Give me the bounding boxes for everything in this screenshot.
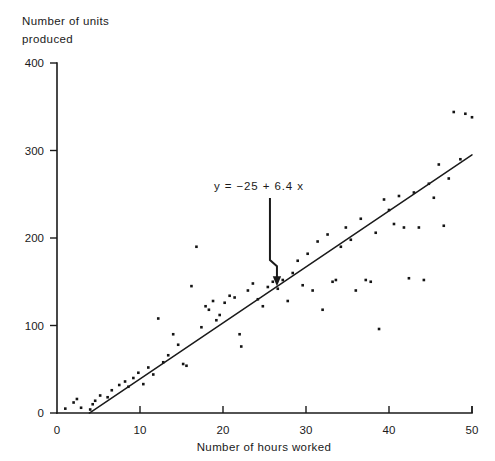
data-point — [311, 289, 314, 292]
data-point — [157, 317, 160, 320]
data-point — [89, 408, 92, 411]
data-point — [464, 112, 467, 115]
x-tick-label: 0 — [54, 424, 60, 436]
data-point — [252, 282, 255, 285]
data-point — [321, 308, 324, 311]
data-point — [393, 223, 396, 226]
data-point — [301, 284, 304, 287]
x-tick-label: 20 — [217, 424, 230, 436]
data-point — [364, 279, 367, 282]
x-tick-label: 40 — [383, 424, 396, 436]
y-axis-ticks: 0100200300400 — [25, 57, 57, 419]
data-point — [423, 279, 426, 282]
data-point — [215, 319, 218, 322]
x-tick-label: 30 — [300, 424, 313, 436]
data-point — [142, 383, 145, 386]
data-point — [340, 245, 343, 248]
data-point — [94, 399, 97, 402]
data-point — [137, 371, 140, 374]
data-point — [185, 364, 188, 367]
data-point — [345, 226, 348, 229]
data-point — [64, 407, 67, 410]
y-axis-title-line2: produced — [22, 33, 73, 45]
data-point — [369, 280, 372, 283]
data-point — [106, 396, 109, 399]
plot-canvas: Number of units produced 0100200300400 0… — [0, 0, 495, 461]
y-tick-label: 0 — [38, 407, 44, 419]
data-point — [438, 163, 441, 166]
data-point — [403, 226, 406, 229]
data-point — [306, 252, 309, 255]
data-point — [281, 279, 284, 282]
data-point — [355, 289, 358, 292]
data-point — [378, 328, 381, 331]
data-points — [64, 111, 473, 411]
data-point — [118, 384, 121, 387]
data-point — [447, 177, 450, 180]
data-point — [147, 366, 150, 369]
data-point — [408, 277, 411, 280]
data-point — [80, 406, 83, 409]
data-point — [433, 196, 436, 199]
data-point — [418, 226, 421, 229]
annotation-arrow — [270, 198, 277, 277]
data-point — [247, 289, 250, 292]
data-point — [326, 233, 329, 236]
data-point — [91, 403, 94, 406]
data-point — [182, 363, 185, 366]
data-point — [276, 287, 279, 290]
data-point — [335, 279, 338, 282]
data-point — [359, 217, 362, 220]
data-point — [223, 301, 226, 304]
data-point — [204, 305, 207, 308]
data-point — [452, 111, 455, 114]
x-tick-label: 50 — [466, 424, 479, 436]
x-axis-title: Number of hours worked — [197, 441, 332, 453]
data-point — [296, 259, 299, 262]
data-point — [471, 116, 474, 119]
data-point — [132, 377, 135, 380]
equation-annotation: y = −25 + 6.4 x — [214, 180, 304, 192]
data-point — [286, 300, 289, 303]
x-tick-label: 10 — [134, 424, 147, 436]
y-tick-label: 100 — [25, 320, 44, 332]
y-axis-title-line1: Number of units — [22, 15, 109, 27]
data-point — [200, 326, 203, 329]
data-point — [267, 286, 270, 289]
data-point — [291, 272, 294, 275]
scatter-chart: Number of units produced 0100200300400 0… — [0, 0, 495, 461]
data-point — [262, 305, 265, 308]
data-point — [442, 224, 445, 227]
data-point — [240, 345, 243, 348]
data-point — [228, 294, 231, 297]
data-point — [76, 398, 79, 401]
regression-line — [89, 155, 472, 413]
data-point — [238, 333, 241, 336]
data-point — [398, 195, 401, 198]
data-point — [110, 389, 113, 392]
data-point — [350, 238, 353, 241]
data-point — [124, 380, 127, 383]
data-point — [459, 158, 462, 161]
data-point — [167, 354, 170, 357]
data-point — [172, 333, 175, 336]
data-point — [272, 280, 275, 283]
data-point — [177, 343, 180, 346]
data-point — [195, 245, 198, 248]
data-point — [72, 401, 75, 404]
data-point — [99, 394, 102, 397]
y-tick-label: 200 — [25, 232, 44, 244]
y-axis-title: Number of units produced — [22, 15, 109, 45]
data-point — [212, 300, 215, 303]
data-point — [383, 198, 386, 201]
data-point — [208, 308, 211, 311]
y-tick-label: 300 — [25, 145, 44, 157]
data-point — [374, 231, 377, 234]
y-tick-label: 400 — [25, 57, 44, 69]
x-axis-ticks: 01020304050 — [54, 406, 479, 436]
data-point — [218, 314, 221, 317]
data-point — [152, 373, 155, 376]
data-point — [233, 296, 236, 299]
data-point — [331, 280, 334, 283]
data-point — [316, 240, 319, 243]
